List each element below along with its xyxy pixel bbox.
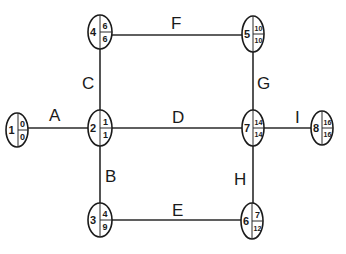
- edge-label-F: F: [171, 14, 181, 33]
- edge-label-C: C: [82, 74, 94, 93]
- node-2: 2 1 1: [88, 110, 112, 146]
- edge-label-A: A: [49, 106, 61, 125]
- network-diagram: A B C D E F G H I 1 0 0 2 1 1 3 4 9 4: [0, 0, 346, 254]
- node-4-bottom: 6: [103, 34, 108, 44]
- edges: [28, 35, 311, 220]
- edge-label-I: I: [295, 108, 300, 127]
- edge-label-E: E: [172, 201, 183, 220]
- node-4-id: 4: [90, 26, 97, 38]
- node-1-id: 1: [9, 124, 15, 136]
- node-6-bottom: 12: [254, 225, 262, 232]
- node-2-top: 1: [103, 117, 108, 127]
- node-6-id: 6: [243, 215, 249, 227]
- edge-label-B: B: [105, 167, 116, 186]
- node-1-bottom: 0: [20, 132, 25, 142]
- node-3-bottom: 9: [103, 222, 108, 232]
- node-7-bottom: 14: [255, 131, 263, 138]
- node-8-top: 16: [324, 119, 332, 126]
- node-6: 6 7 12: [241, 203, 263, 239]
- node-8-bottom: 16: [324, 131, 332, 138]
- node-5: 5 10 10: [242, 16, 264, 52]
- node-7-top: 14: [255, 119, 263, 126]
- node-4-top: 6: [103, 21, 108, 31]
- node-5-id: 5: [244, 28, 250, 40]
- node-7: 7 14 14: [242, 110, 264, 146]
- node-5-bottom: 10: [255, 37, 263, 44]
- node-8-id: 8: [313, 122, 319, 134]
- node-3: 3 4 9: [88, 203, 112, 237]
- node-4: 4 6 6: [88, 15, 112, 49]
- node-1: 1 0 0: [6, 113, 28, 147]
- node-5-top: 10: [255, 25, 263, 32]
- edge-label-G: G: [257, 74, 270, 93]
- node-1-top: 0: [20, 119, 25, 129]
- node-7-id: 7: [244, 122, 250, 134]
- edge-label-D: D: [172, 108, 184, 127]
- node-6-top: 7: [255, 210, 260, 220]
- node-2-id: 2: [90, 122, 96, 134]
- node-3-id: 3: [90, 214, 96, 226]
- edge-label-H: H: [234, 170, 246, 189]
- node-2-bottom: 1: [103, 130, 108, 140]
- node-3-top: 4: [103, 209, 108, 219]
- node-8: 8 16 16: [311, 111, 333, 145]
